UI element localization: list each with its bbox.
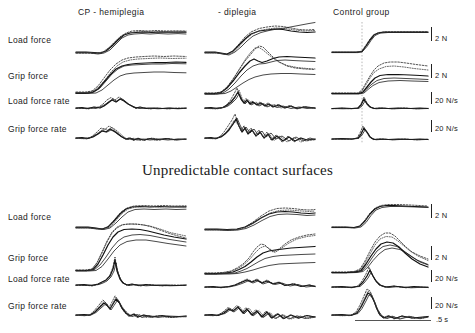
scale-label-grip-force-rate-upper: 20 N/s [435,124,458,133]
trace-panel-hemiplegia-lower [76,197,188,322]
scale-label-grip-force-lower: 2 N [435,253,447,262]
row-label-load-force-lower: Load force [8,212,51,222]
row-label-load-force-upper: Load force [8,35,51,45]
scale-label-load-force-upper: 2 N [435,34,447,43]
scale-label-grip-force-rate-lower: 20 N/s [435,301,458,310]
scale-tick-grip-force-upper [431,64,432,78]
scale-label-load-force-lower: 2 N [435,211,447,220]
trace-panel-control-lower [332,197,428,322]
trace-panel-control-upper [332,20,428,145]
row-label-load-force-rate-lower: Load force rate [8,274,70,284]
force-trace-figure: CP - hemiplegia - diplegia Control group… [0,0,475,333]
scale-tick-load-force-rate-upper [431,92,432,104]
trace-panel-hemiplegia-upper [76,20,188,145]
row-label-grip-force-lower: Grip force [8,253,48,263]
scale-tick-load-force-rate-lower [431,270,432,282]
column-header-control: Control group [333,7,390,17]
scale-tick-load-force-lower [431,204,432,218]
figure-caption: Unpredictable contact surfaces [0,162,475,179]
scale-label-grip-force-upper: 2 N [435,71,447,80]
row-label-grip-force-upper: Grip force [8,71,48,81]
row-label-load-force-rate-upper: Load force rate [8,96,70,106]
time-scale-label: .5 s [436,315,448,324]
scale-tick-grip-force-rate-upper [431,120,432,132]
scale-tick-load-force-upper [431,27,432,41]
scale-label-load-force-rate-upper: 20 N/s [435,96,458,105]
column-header-diplegia: - diplegia [218,7,257,17]
trace-panel-diplegia-upper [205,20,317,145]
scale-label-load-force-rate-lower: 20 N/s [435,274,458,283]
column-header-hemiplegia: CP - hemiplegia [78,7,144,17]
trace-panel-diplegia-lower [205,197,317,322]
row-label-grip-force-rate-lower: Grip force rate [8,301,67,311]
scale-tick-grip-force-lower [431,246,432,260]
row-label-grip-force-rate-upper: Grip force rate [8,124,67,134]
scale-tick-grip-force-rate-lower [431,297,432,309]
